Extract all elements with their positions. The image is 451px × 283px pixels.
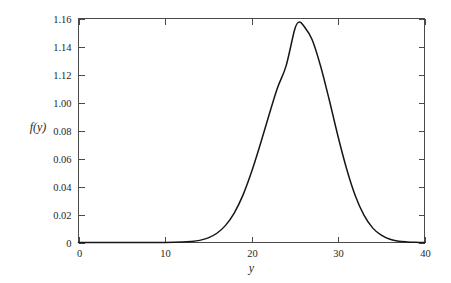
x-tick-label: 20: [247, 248, 258, 259]
y-tick-label: 0.06: [53, 154, 71, 165]
x-axis-ticks-top: [80, 19, 426, 25]
y-axis-ticks-right: [419, 20, 425, 244]
x-tick-label: 10: [160, 248, 171, 259]
y-tick-label: 1.14: [53, 42, 72, 53]
y-axis-ticks-left: [79, 20, 85, 244]
y-axis-title: f(y): [30, 120, 47, 134]
y-tick-label: 1.16: [53, 14, 71, 25]
y-tick-label: 0.02: [53, 210, 71, 221]
y-tick-label: 0.04: [53, 182, 72, 193]
y-tick-label: 0.08: [53, 126, 71, 137]
x-tick-label: 30: [333, 248, 344, 259]
x-tick-label: 0: [77, 248, 82, 259]
y-tick-label: 1.12: [53, 70, 71, 81]
x-axis-title: y: [248, 261, 255, 275]
y-tick-label: 1.00: [53, 98, 71, 109]
chart-figure: 1.161.141.121.000.080.060.040.020 010203…: [0, 0, 451, 283]
x-tick-label: 40: [420, 248, 431, 259]
plot-canvas: 1.161.141.121.000.080.060.040.020 010203…: [0, 0, 451, 283]
density-curve: [79, 22, 425, 243]
x-axis-ticks-bottom: [80, 237, 426, 243]
x-axis-tick-labels: 010203040: [77, 248, 431, 259]
y-axis-tick-labels: 1.161.141.121.000.080.060.040.020: [53, 14, 72, 249]
y-tick-label: 0: [66, 238, 71, 249]
plot-frame: [79, 19, 425, 243]
